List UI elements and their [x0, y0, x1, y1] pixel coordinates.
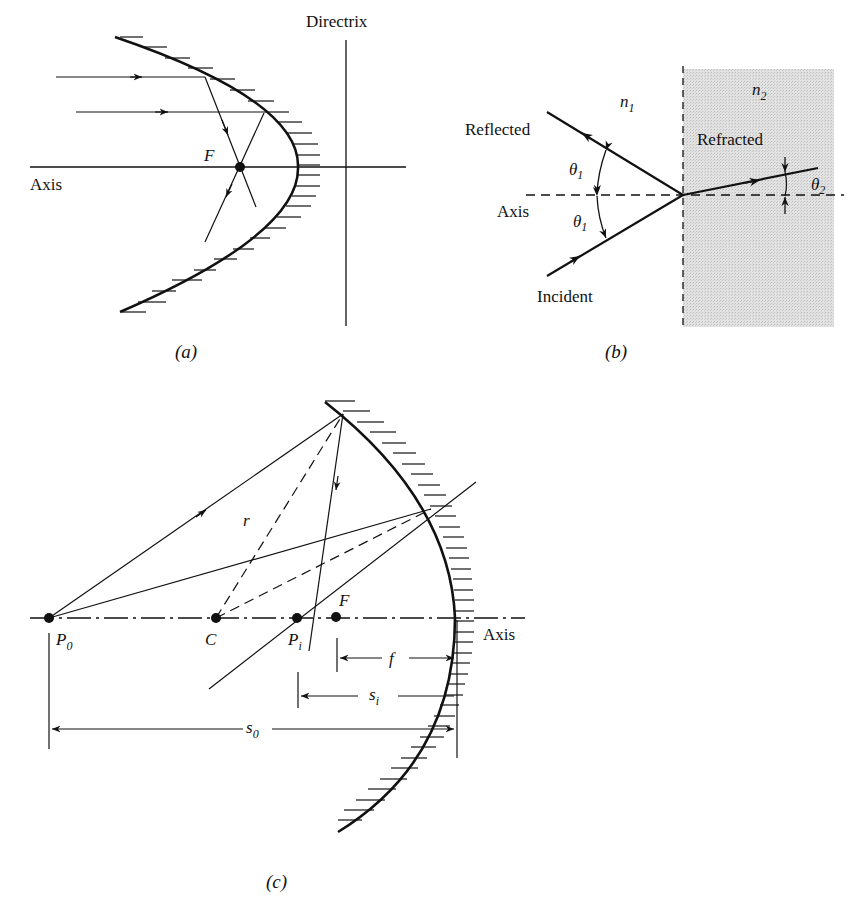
f-point-label: F	[338, 591, 350, 610]
incident-ray	[547, 195, 683, 276]
radius-label: r	[243, 511, 250, 530]
caption-c: (c)	[266, 871, 287, 893]
point-p0	[44, 613, 54, 623]
figure-a-parabolic-mirror: F Axis Directrix (a)	[30, 12, 406, 363]
axis-label-a: Axis	[30, 175, 62, 194]
reflected-ray	[547, 112, 683, 195]
medium-2-region	[683, 69, 834, 327]
refracted-label: Refracted	[697, 130, 764, 149]
axis-label-b: Axis	[497, 202, 529, 221]
incident-label: Incident	[537, 287, 593, 306]
theta1-bottom-label: θ1	[573, 212, 587, 234]
directrix-label: Directrix	[306, 12, 368, 31]
point-c	[211, 613, 221, 623]
mirror-hatching-c	[325, 401, 474, 820]
point-pi	[292, 613, 302, 623]
si-label: si	[369, 685, 379, 708]
theta1-top-label: θ1	[569, 160, 583, 182]
optics-figure: F Axis Directrix (a) n1 n2 Reflected Ref…	[0, 0, 864, 921]
c-label: C	[205, 630, 217, 649]
figure-c-spherical-mirror: P0 C Pi F r Axis f si s0 (c)	[30, 401, 525, 893]
axis-label-c: Axis	[483, 625, 515, 644]
reflected-label: Reflected	[465, 120, 531, 139]
parabolic-mirror	[115, 37, 298, 312]
mirror-hatching	[120, 37, 320, 312]
p0-label: P0	[55, 630, 72, 653]
pi-label: Pi	[287, 630, 302, 653]
caption-a: (a)	[175, 341, 197, 363]
figure-b-refraction: n1 n2 Reflected Refracted Incident Axis …	[465, 66, 844, 363]
theta1-top-arc	[597, 150, 606, 194]
n1-label: n1	[620, 92, 635, 115]
ray-p0-to-mid	[49, 509, 431, 618]
caption-b: (b)	[605, 341, 627, 363]
theta1-bottom-arc	[597, 196, 606, 238]
f-dim-label: f	[389, 649, 396, 668]
ray-p0-to-top	[49, 414, 343, 618]
point-f	[331, 612, 341, 622]
spherical-mirror	[325, 402, 455, 832]
radius-line-1	[216, 414, 343, 618]
reflected-ray-2	[205, 113, 264, 242]
focus-label: F	[203, 146, 215, 165]
so-label: s0	[246, 718, 259, 741]
focus-point	[235, 162, 245, 172]
